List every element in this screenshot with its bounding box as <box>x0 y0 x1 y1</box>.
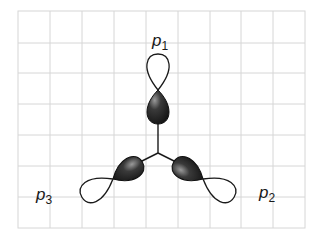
p1-dark-lobe <box>147 90 169 124</box>
p2-light-lobe <box>197 169 239 206</box>
orbital-p3 <box>76 152 148 206</box>
p3-light-lobe <box>76 169 118 206</box>
orbital-diagram: p1 p2 p3 <box>0 0 319 243</box>
p2-dark-lobe <box>168 152 208 188</box>
label-p1: p1 <box>151 31 168 53</box>
orbital-p2 <box>168 152 240 206</box>
orbital-p1 <box>147 54 169 124</box>
p1-light-lobe <box>147 54 169 90</box>
